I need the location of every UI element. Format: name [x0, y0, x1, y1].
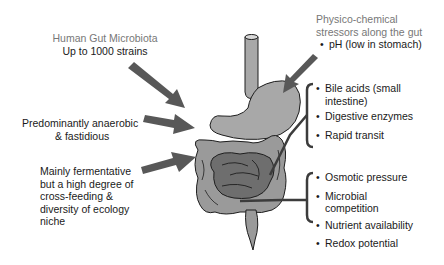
fermentative-line-4: diversity of ecology [40, 203, 170, 216]
stressors-header-line-2: stressors along the gut [316, 26, 444, 39]
arrow-microbiota [128, 62, 185, 108]
list-item-bile-acids: Bile acids (small intestine) [316, 82, 426, 107]
list-item-digestive-enzymes: Digestive enzymes [316, 110, 426, 123]
list-item-ph: pH (low in stomach) [320, 38, 444, 51]
microbiota-title: Human Gut Microbiota [40, 32, 170, 45]
fermentative-line-2: but a high degree of [40, 178, 170, 191]
list-item-redox-potential: Redox potential [316, 237, 434, 250]
anaerobic-line-1: Predominantly anaerobic [22, 117, 152, 130]
list-item-nutrient-availability: Nutrient availability [316, 219, 434, 232]
list-item-rapid-transit: Rapid transit [316, 129, 426, 142]
small-intestine-stressors-list: Bile acids (small intestine) Digestive e… [316, 82, 426, 141]
arrow-ph [283, 54, 318, 93]
stressors-header: Physico-chemical stressors along the gut [316, 13, 444, 38]
anaerobic-line-2: & fastidious [22, 130, 152, 143]
list-item-microbial-competition: Microbial competition [316, 190, 405, 215]
fermentative-line-1: Mainly fermentative [40, 165, 170, 178]
colon-stressors-list: Osmotic pressure Microbial competition N… [316, 171, 434, 250]
list-item-osmotic-pressure: Osmotic pressure [316, 171, 434, 184]
stressors-header-line-1: Physico-chemical [316, 13, 444, 26]
esophagus-illustration [245, 35, 258, 99]
anaerobic-label: Predominantly anaerobic & fastidious [22, 117, 152, 142]
microbiota-subtitle: Up to 1000 strains [40, 45, 170, 58]
fermentative-label: Mainly fermentative but a high degree of… [40, 165, 170, 228]
fermentative-line-5: niche [40, 215, 170, 228]
fermentative-line-3: cross-feeding & [40, 190, 170, 203]
stomach-stressors-list: pH (low in stomach) [320, 38, 444, 51]
